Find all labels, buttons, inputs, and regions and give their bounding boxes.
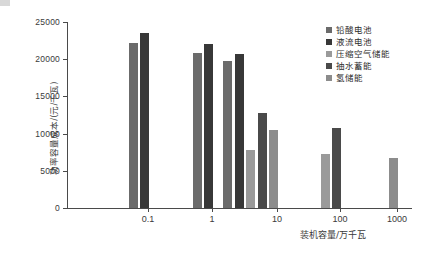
bar	[389, 158, 398, 208]
y-axis-tick	[63, 171, 67, 172]
x-axis-tick	[148, 208, 149, 212]
y-axis-tick-label: 5000	[40, 166, 60, 176]
bar	[246, 150, 255, 208]
y-axis-line	[67, 22, 68, 208]
legend-label: 抽水蓄能	[336, 62, 372, 71]
x-axis-tick-label: 100	[332, 214, 347, 224]
x-axis-tick	[397, 208, 398, 212]
y-axis-tick-label: 10000	[35, 129, 60, 139]
legend-item: 铅酸电池	[326, 26, 390, 35]
y-axis-tick	[63, 208, 67, 209]
x-axis-tick-label: 0.1	[142, 214, 155, 224]
x-axis-tick	[212, 208, 213, 212]
bar	[129, 43, 138, 208]
x-axis-tick	[340, 208, 341, 212]
legend-swatch-icon	[326, 75, 332, 81]
legend-item: 压缩空气储能	[326, 50, 390, 59]
bar	[258, 113, 267, 208]
x-axis-tick	[277, 208, 278, 212]
legend-item: 氢储能	[326, 74, 390, 83]
legend-label: 液流电池	[336, 38, 372, 47]
legend-item: 液流电池	[326, 38, 390, 47]
y-axis-tick	[63, 22, 67, 23]
bar	[140, 33, 149, 208]
y-axis-tick	[63, 134, 67, 135]
bar	[223, 61, 232, 208]
bar	[269, 130, 278, 208]
legend-swatch-icon	[326, 63, 332, 69]
x-axis-tick-label: 10	[272, 214, 282, 224]
legend-label: 铅酸电池	[336, 26, 372, 35]
chart-figure: 功率容量成本/(元/千瓦) 装机容量/万千瓦 05000100001500020…	[0, 0, 431, 256]
bar	[235, 54, 244, 208]
scan-artifact	[0, 0, 10, 6]
legend-label: 氢储能	[336, 74, 363, 83]
y-axis-tick-label: 20000	[35, 54, 60, 64]
bar	[332, 128, 341, 208]
legend-swatch-icon	[326, 51, 332, 57]
y-axis-tick	[63, 59, 67, 60]
bar	[321, 154, 330, 208]
bar	[193, 53, 202, 208]
legend-item: 抽水蓄能	[326, 62, 390, 71]
y-axis-tick-label: 25000	[35, 17, 60, 27]
y-axis-tick-label: 15000	[35, 91, 60, 101]
x-axis-line	[67, 208, 412, 209]
chart-legend: 铅酸电池液流电池压缩空气储能抽水蓄能氢储能	[326, 26, 390, 83]
bar	[204, 44, 213, 208]
legend-label: 压缩空气储能	[336, 50, 390, 59]
legend-swatch-icon	[326, 27, 332, 33]
y-axis-tick	[63, 96, 67, 97]
legend-swatch-icon	[326, 39, 332, 45]
x-axis-tick-label: 1	[209, 214, 214, 224]
x-axis-title: 装机容量/万千瓦	[300, 228, 366, 241]
y-axis-tick-label: 0	[55, 203, 60, 213]
x-axis-tick-label: 1000	[387, 214, 407, 224]
